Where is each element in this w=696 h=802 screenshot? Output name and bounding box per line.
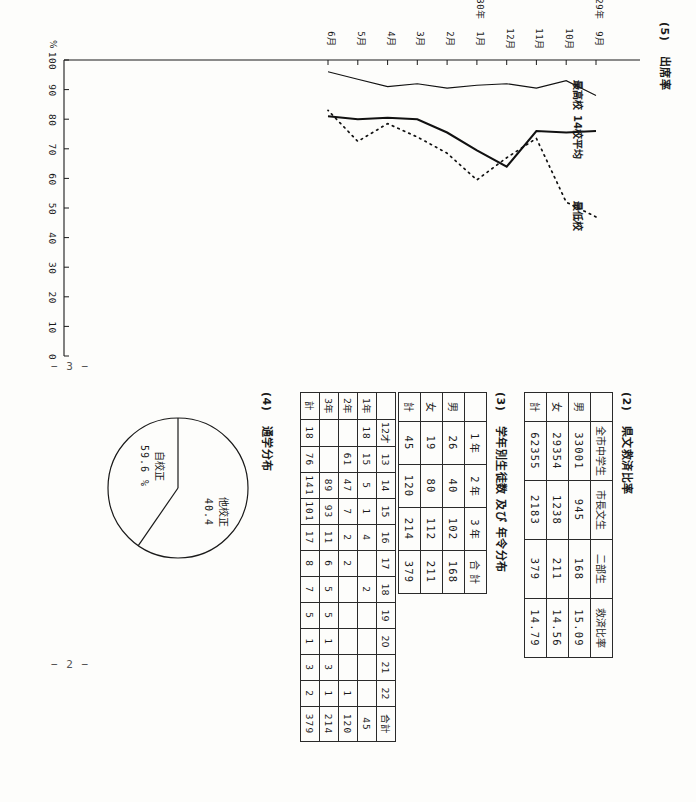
table-cell: [358, 681, 377, 707]
table-row: 女1980112211: [421, 393, 443, 594]
table-cell: 5: [320, 577, 339, 603]
table-row: 計187614110117875132379: [301, 393, 320, 742]
row-header: 女: [547, 393, 569, 422]
section-5-number: (5): [658, 22, 671, 41]
attendance-line-chart: 1009080706050403020100 9月29年10月11月12月1月3…: [24, 20, 654, 366]
row-header: 計: [399, 393, 421, 422]
x-tick-label: 9月: [594, 26, 604, 52]
column-header: 合計: [377, 707, 396, 742]
table-cell: 76: [301, 447, 320, 473]
table-cell: [339, 603, 358, 629]
table-cell: 112: [421, 508, 443, 551]
section-3-grade-and-age: (3) 学年別生徒数 及び 年令分布 1 年2 年3 年合 計男26401021…: [398, 392, 510, 594]
table-cell: 7: [301, 577, 320, 603]
column-header: 全市中学生: [591, 422, 613, 481]
column-header: 13: [377, 447, 396, 473]
table-cell: [339, 655, 358, 681]
table-row: 計62355218337914.79: [525, 393, 547, 658]
section-4-number: (4): [260, 392, 273, 411]
row-header: 計: [525, 393, 547, 422]
table-cell: 141: [301, 473, 320, 499]
folio-page-2: − 2 −: [51, 658, 89, 671]
table-cell: 5: [320, 603, 339, 629]
section-2-heading: (2) 県文救済比率: [620, 392, 636, 658]
section-5-attendance-rate: (5) 出席率 1009080706050403020100 9月29年10月1…: [18, 20, 678, 366]
table-row: 1年1815514 2 45: [358, 393, 377, 742]
age-distribution-table: 12才13141516171819202122合計1年1815514 2 452…: [300, 392, 396, 742]
x-tick-label: 4月: [385, 26, 395, 52]
series-label-2: 14校平均: [571, 115, 586, 159]
table-cell: 80: [421, 465, 443, 508]
table-cell: 945: [569, 481, 591, 540]
table-cell: 19: [421, 422, 443, 465]
row-header: 2年: [339, 393, 358, 420]
table-cell: 14.79: [525, 599, 547, 658]
row-header: 計: [301, 393, 320, 420]
column-header: 15: [377, 499, 396, 525]
column-header: 2 年: [465, 465, 487, 508]
section-4-heading: (4) 通学分布: [260, 392, 276, 562]
grade-enrollment-table: 1 年2 年3 年合 計男2640102168女1980112211計45120…: [398, 392, 487, 594]
x-tick-label: 12月: [504, 26, 514, 52]
table-cell: 18: [358, 420, 377, 447]
series-label-1: 最高校: [571, 80, 586, 110]
pie-label-self-school: 自校正 59.6 %: [137, 420, 166, 512]
table-cell: 14.56: [547, 599, 569, 658]
table-cell: 4: [358, 525, 377, 551]
table-cell: 102: [443, 508, 465, 551]
x-tick-label: 11月: [534, 26, 544, 52]
x-tick-label: 3月: [415, 26, 425, 52]
table-cell: 11: [320, 525, 339, 551]
section-5-title: 出席率: [658, 56, 671, 91]
y-tick-label: 60: [47, 169, 58, 189]
column-header: 19: [377, 603, 396, 629]
table-header-row: 全市中学生市長文生二部生救済比率: [591, 393, 613, 658]
pie-label-other-school-text: 他校正: [216, 466, 231, 558]
age-distribution-block: 12才13141516171819202122合計1年1815514 2 452…: [300, 392, 396, 742]
table-cell: 45: [399, 422, 421, 465]
column-header: 二部生: [591, 540, 613, 599]
table-cell: 47: [339, 473, 358, 499]
table-cell: [339, 629, 358, 655]
pie-label-self-school-value: 59.6 %: [137, 420, 152, 512]
column-header: [377, 393, 396, 420]
table-cell: 1: [339, 681, 358, 707]
table-cell: 1: [320, 629, 339, 655]
table-cell: 379: [301, 707, 320, 742]
column-header: [591, 393, 613, 422]
table-cell: 8: [301, 551, 320, 577]
x-year-label: 29年: [594, 0, 604, 22]
table-cell: 1: [301, 629, 320, 655]
table-cell: 1: [320, 681, 339, 707]
row-header: 1年: [358, 393, 377, 420]
column-header: 18: [377, 577, 396, 603]
row-header: 男: [569, 393, 591, 422]
table-cell: 62355: [525, 422, 547, 481]
y-tick-label: 100: [47, 51, 58, 71]
y-tick-label: 20: [47, 288, 58, 308]
section-4-commuting-distribution: (4) 通学分布 自校正 59.6 % 他校正 40.4: [104, 392, 276, 562]
table-cell: 211: [421, 551, 443, 594]
table-header-row: 12才13141516171819202122合計: [377, 393, 396, 742]
commuting-pie-chart: 自校正 59.6 % 他校正 40.4: [104, 414, 252, 562]
table-cell: 168: [569, 540, 591, 599]
section-2-title: 県文救済比率: [620, 426, 633, 495]
pie-label-self-school-text: 自校正: [152, 420, 167, 512]
column-header: 合 計: [465, 551, 487, 594]
y-tick-label: 30: [47, 258, 58, 278]
y-axis-unit: %: [48, 40, 58, 49]
table-cell: [339, 420, 358, 447]
column-header: [465, 393, 487, 422]
section-4-title: 通学分布: [260, 426, 273, 472]
row-header: 女: [421, 393, 443, 422]
chart-svg: [24, 20, 654, 366]
series-line: [328, 110, 596, 217]
series-line: [328, 72, 596, 96]
column-header: 14: [377, 473, 396, 499]
section-2-relief-ratio: (2) 県文救済比率 全市中学生市長文生二部生救済比率男330019451681…: [524, 392, 636, 658]
table-cell: [358, 629, 377, 655]
table-row: 男2640102168: [443, 393, 465, 594]
table-cell: [320, 447, 339, 473]
y-tick-label: 70: [47, 140, 58, 160]
table-cell: 61: [339, 447, 358, 473]
